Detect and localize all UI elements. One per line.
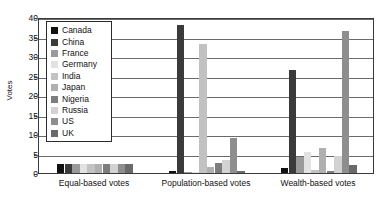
bar	[304, 152, 311, 173]
bar	[125, 164, 132, 173]
bar	[342, 31, 349, 173]
bar	[110, 164, 117, 173]
x-axis-tick-label: Equal-based votes	[59, 178, 129, 188]
y-axis-tick-mark	[34, 116, 37, 117]
legend-swatch-icon	[51, 61, 58, 68]
bar	[184, 172, 191, 173]
legend-item[interactable]: Nigeria	[51, 93, 108, 104]
y-axis-tick-mark	[34, 174, 37, 175]
bar	[169, 171, 176, 173]
bar	[80, 164, 87, 173]
legend-swatch-icon	[51, 27, 58, 34]
bar	[215, 163, 222, 173]
legend-item-label: Nigeria	[62, 95, 89, 104]
legend-item[interactable]: Germany	[51, 59, 108, 70]
y-axis-tick-labels: 0510152025303540	[14, 0, 38, 180]
y-axis-tick-mark	[34, 155, 37, 156]
legend: CanadaChinaFranceGermanyIndiaJapanNigeri…	[46, 21, 112, 142]
legend-item-label: UK	[62, 129, 74, 138]
bar	[222, 160, 229, 173]
bar	[118, 164, 125, 173]
legend-swatch-icon	[51, 84, 58, 91]
bar	[237, 171, 244, 173]
y-axis-tick-mark	[34, 77, 37, 78]
legend-item-label: China	[62, 38, 84, 47]
y-axis-tick-mark	[34, 38, 37, 39]
legend-item-label: Germany	[62, 60, 97, 69]
legend-item-label: Russia	[62, 106, 88, 115]
bar	[65, 164, 72, 173]
legend-swatch-icon	[51, 96, 58, 103]
bar	[311, 170, 318, 173]
legend-swatch-icon	[51, 130, 58, 137]
legend-item[interactable]: France	[51, 48, 108, 59]
x-axis-tick-label: Wealth-based votes	[281, 178, 356, 188]
bar	[230, 138, 237, 173]
legend-item[interactable]: UK	[51, 128, 108, 139]
legend-swatch-icon	[51, 39, 58, 46]
y-axis-tick-mark	[34, 135, 37, 136]
legend-swatch-icon	[51, 50, 58, 57]
bar	[281, 168, 288, 173]
legend-item[interactable]: China	[51, 36, 108, 47]
y-axis-tick-mark	[34, 18, 37, 19]
bar	[349, 165, 356, 173]
bar	[87, 164, 94, 173]
legend-item-label: Japan	[62, 83, 85, 92]
x-axis-tick-label: Population-based votes	[162, 178, 251, 188]
legend-item-label: Canada	[62, 26, 92, 35]
legend-item[interactable]: India	[51, 71, 108, 82]
legend-item-label: France	[62, 49, 88, 58]
y-axis-title-text: Votes	[5, 80, 14, 100]
bar	[207, 167, 214, 173]
bar	[72, 164, 79, 173]
x-axis-tick-labels: Equal-based votesPopulation-based votesW…	[38, 178, 374, 194]
legend-item-label: US	[62, 117, 74, 126]
legend-item[interactable]: Canada	[51, 25, 108, 36]
bar	[199, 44, 206, 173]
bar	[95, 164, 102, 173]
bar	[319, 148, 326, 173]
legend-swatch-icon	[51, 73, 58, 80]
legend-item[interactable]: Russia	[51, 105, 108, 116]
y-axis-tick-mark	[34, 57, 37, 58]
bar	[103, 164, 110, 173]
bar	[57, 164, 64, 173]
bar	[192, 172, 199, 173]
legend-swatch-icon	[51, 107, 58, 114]
bar	[177, 25, 184, 173]
bar	[334, 156, 341, 173]
legend-swatch-icon	[51, 118, 58, 125]
legend-item-label: India	[62, 72, 80, 81]
bar	[296, 157, 303, 173]
legend-item[interactable]: Japan	[51, 82, 108, 93]
bar-chart: Votes 0510152025303540 Equal-based votes…	[0, 0, 379, 207]
bar	[327, 171, 334, 173]
y-axis-tick-mark	[34, 96, 37, 97]
bar	[289, 70, 296, 173]
legend-item[interactable]: US	[51, 116, 108, 127]
